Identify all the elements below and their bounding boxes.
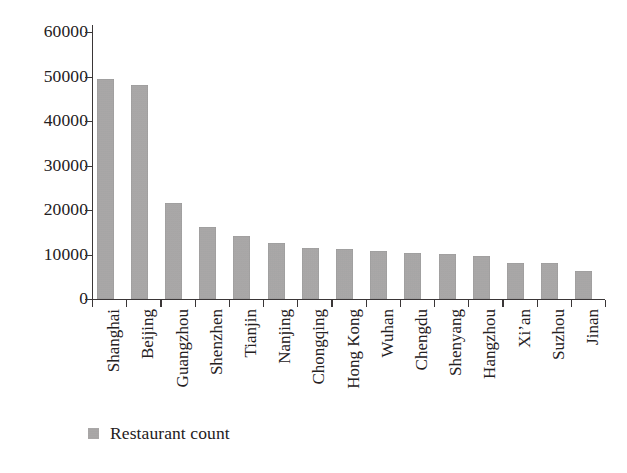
bar [473, 256, 490, 299]
x-tick-label: Xi’an [516, 309, 533, 348]
x-tick-mark [400, 300, 401, 307]
bar [404, 253, 421, 299]
x-tick-mark [571, 300, 572, 307]
x-tick-label: Hangzhou [481, 309, 498, 379]
x-tick-mark [331, 300, 332, 307]
y-tick-mark [85, 32, 92, 33]
x-tick-mark [366, 300, 367, 307]
x-tick-mark [468, 300, 469, 307]
legend-swatch-icon [88, 428, 99, 439]
x-tick-label: Shenyang [447, 309, 464, 376]
x-tick-label: Tianjin [242, 309, 259, 358]
plot-area: 0100002000030000400005000060000 Shanghai… [0, 0, 627, 473]
bar [541, 263, 558, 299]
x-tick-label: Chongqing [310, 309, 327, 385]
bar [302, 248, 319, 299]
bar [575, 271, 592, 299]
x-tick-mark [605, 300, 606, 307]
bar [439, 254, 456, 299]
x-axis-tick-labels: ShanghaiBeijingGuangzhouShenzhenTianjinN… [0, 309, 627, 409]
bar [165, 203, 182, 299]
bar-chart-figure: 0100002000030000400005000060000 Shanghai… [0, 0, 627, 473]
bar [97, 79, 114, 299]
x-tick-label: Wuhan [379, 309, 396, 357]
x-tick-label: Chengdu [413, 309, 430, 370]
bar [268, 243, 285, 299]
x-tick-mark [434, 300, 435, 307]
x-tick-mark [229, 300, 230, 307]
bar [199, 227, 216, 299]
x-tick-mark [160, 300, 161, 307]
x-tick-label: Beijing [139, 309, 156, 359]
legend-label-restaurant-count: Restaurant count [110, 424, 230, 442]
bar [336, 249, 353, 299]
y-tick-mark [85, 121, 92, 122]
y-tick-mark [85, 166, 92, 167]
bar [507, 263, 524, 299]
x-tick-mark [263, 300, 264, 307]
chart-legend: Restaurant count [88, 424, 230, 442]
y-tick-mark [85, 77, 92, 78]
bar [370, 251, 387, 300]
x-tick-mark [537, 300, 538, 307]
y-tick-mark [85, 299, 92, 300]
x-tick-label: Guangzhou [174, 309, 191, 387]
x-tick-mark [502, 300, 503, 307]
x-tick-label: Suzhou [550, 309, 567, 360]
y-tick-mark [85, 210, 92, 211]
y-tick-mark [85, 255, 92, 256]
bar [131, 85, 148, 299]
x-tick-mark [297, 300, 298, 307]
x-tick-label: Hong Kong [345, 309, 362, 389]
x-tick-label: Shenzhen [208, 309, 225, 375]
x-tick-label: Nanjing [276, 309, 293, 364]
x-tick-label: Jinan [584, 309, 601, 345]
x-tick-mark [92, 300, 93, 307]
x-tick-mark [195, 300, 196, 307]
x-tick-label: Shanghai [105, 309, 122, 372]
bar [233, 236, 250, 299]
x-tick-mark [126, 300, 127, 307]
